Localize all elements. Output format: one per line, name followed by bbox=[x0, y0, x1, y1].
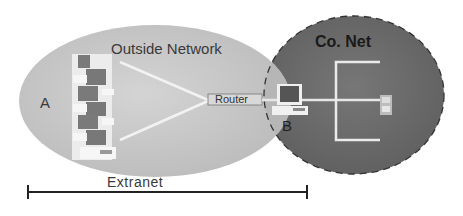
extranet-span-bar bbox=[28, 185, 307, 199]
extranet-label: Extranet bbox=[107, 174, 163, 190]
computer-stack-icon bbox=[72, 54, 116, 160]
node-a-label: A bbox=[40, 94, 50, 111]
network-diagram bbox=[0, 0, 463, 216]
co-net-label: Co. Net bbox=[315, 33, 371, 51]
node-b-label: B bbox=[282, 117, 292, 134]
outside-network-label: Outside Network bbox=[111, 40, 222, 57]
server-icon bbox=[380, 95, 392, 115]
router-label: Router bbox=[215, 93, 248, 105]
